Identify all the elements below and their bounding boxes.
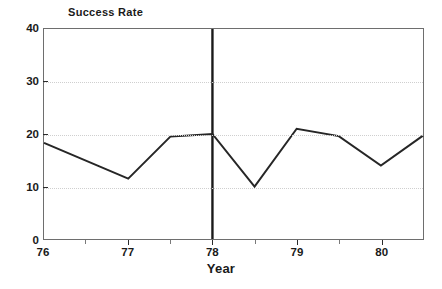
x-minor-tick-76.5 [85, 240, 86, 244]
x-tick-mark-78 [212, 240, 213, 245]
y-tick-label-0: 0 [5, 234, 39, 246]
x-tick-label-76: 76 [37, 246, 50, 258]
y-tick-label-20: 20 [5, 128, 39, 140]
x-axis-title: Year [0, 261, 442, 276]
series-line-0 [44, 129, 423, 187]
x-tick-label-80: 80 [375, 246, 388, 258]
plot-area [43, 28, 424, 240]
x-tick-mark-79 [297, 240, 298, 245]
y-tick-mark-10 [43, 187, 48, 188]
line-chart: Success Rate 010203040 Year 7677787980 [0, 0, 442, 289]
y-axis-tick-labels: 010203040 [0, 0, 39, 289]
series-layer [44, 29, 423, 239]
x-tick-label-79: 79 [291, 246, 304, 258]
y-tick-label-30: 30 [5, 75, 39, 87]
gridline-y-20 [44, 135, 423, 136]
x-minor-tick-79.5 [339, 240, 340, 244]
x-minor-tick-77.5 [170, 240, 171, 244]
y-tick-mark-30 [43, 81, 48, 82]
gridline-y-30 [44, 82, 423, 83]
y-tick-label-10: 10 [5, 181, 39, 193]
x-tick-label-77: 77 [121, 246, 134, 258]
gridline-y-10 [44, 188, 423, 189]
y-axis-title: Success Rate [68, 6, 143, 18]
x-tick-label-78: 78 [206, 246, 219, 258]
y-tick-mark-20 [43, 134, 48, 135]
y-tick-label-40: 40 [5, 22, 39, 34]
x-tick-mark-80 [382, 240, 383, 245]
x-tick-mark-77 [128, 240, 129, 245]
x-minor-tick-78.5 [255, 240, 256, 244]
